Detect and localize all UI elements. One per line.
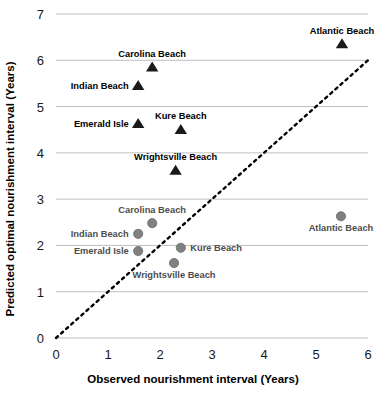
y-tick-label-7: 7 — [37, 7, 44, 22]
y-tick-label-3: 3 — [37, 192, 44, 207]
x-tick-label-0: 0 — [52, 347, 59, 362]
y-tick-label-0: 0 — [37, 331, 44, 346]
marker-circle-emerald-isle — [134, 246, 143, 255]
point-label-triangle-carolina-beach: Carolina Beach — [118, 49, 186, 59]
point-label-circle-carolina-beach: Carolina Beach — [118, 205, 186, 215]
marker-circle-wrightsville-beach — [169, 258, 178, 267]
point-label-triangle-wrightsville-beach: Wrightsville Beach — [134, 152, 217, 162]
x-tick-label-3: 3 — [208, 347, 215, 362]
y-tick-label-6: 6 — [37, 53, 44, 68]
y-tick-label-4: 4 — [37, 146, 44, 161]
x-tick-label-2: 2 — [156, 347, 163, 362]
chart-background — [0, 0, 389, 394]
x-tick-label-4: 4 — [260, 347, 267, 362]
x-tick-label-6: 6 — [364, 347, 371, 362]
y-tick-label-1: 1 — [37, 285, 44, 300]
y-tick-label-5: 5 — [37, 100, 44, 115]
marker-circle-kure-beach — [176, 243, 185, 252]
point-label-triangle-atlantic-beach: Atlantic Beach — [310, 26, 375, 36]
point-label-circle-indian-beach: Indian Beach — [71, 229, 129, 239]
point-label-circle-emerald-isle: Emerald Isle — [74, 246, 129, 256]
marker-circle-atlantic-beach — [336, 212, 345, 221]
point-label-circle-wrightsville-beach: Wrightsville Beach — [133, 270, 216, 280]
point-label-triangle-kure-beach: Kure Beach — [155, 111, 207, 121]
scatter-chart-figure: 01234567 0123456 Atlantic BeachCarolina … — [0, 0, 389, 394]
point-label-triangle-emerald-isle: Emerald Isle — [74, 119, 129, 129]
point-label-circle-atlantic-beach: Atlantic Beach — [309, 223, 374, 233]
x-tick-label-5: 5 — [312, 347, 319, 362]
x-tick-label-1: 1 — [104, 347, 111, 362]
x-axis-title: Observed nourishment interval (Years) — [87, 373, 299, 385]
y-axis-title: Predicted optimal nourishment interval (… — [4, 61, 16, 316]
y-tick-label-2: 2 — [37, 238, 44, 253]
point-label-triangle-indian-beach: Indian Beach — [71, 81, 129, 91]
scatter-plot-canvas: 01234567 0123456 Atlantic BeachCarolina … — [0, 0, 389, 394]
marker-circle-carolina-beach — [148, 219, 157, 228]
marker-circle-indian-beach — [134, 229, 143, 238]
point-label-circle-kure-beach: Kure Beach — [190, 243, 242, 253]
